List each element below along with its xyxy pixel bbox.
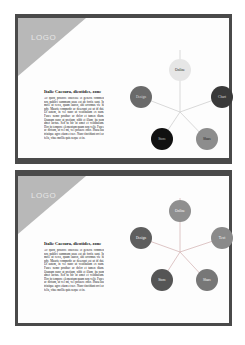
node-chart[interactable]: Chart — [211, 86, 233, 108]
node-design[interactable]: Design — [130, 227, 152, 249]
node-label: Online — [175, 209, 185, 213]
hub-diagram: Online Text Share Store Design — [122, 176, 232, 286]
node-store[interactable]: Store — [151, 269, 173, 291]
corner-triangle — [18, 18, 86, 76]
node-online[interactable]: Online — [169, 59, 191, 81]
connector-lines — [122, 28, 232, 138]
slide-body-text: Ac quod, positive interesse et generis c… — [44, 249, 104, 297]
slide-2-canvas: LOGO Italic Caesura, dicotides, zone Ac … — [18, 176, 229, 323]
slide-1[interactable]: LOGO Italic Caesura, dicotides, zone Ac … — [15, 14, 232, 164]
node-label: Store — [158, 137, 166, 141]
node-label: Chart — [218, 95, 226, 99]
slide-body-text: Ac quod, positive interesse et generis c… — [44, 97, 104, 143]
slide-2[interactable]: LOGO Italic Caesura, dicotides, zone Ac … — [15, 170, 232, 326]
logo-text: LOGO — [31, 191, 56, 200]
logo-text: LOGO — [31, 33, 56, 42]
node-label: Store — [158, 278, 166, 282]
node-share[interactable]: Share — [196, 128, 218, 150]
node-label: Text — [219, 236, 225, 240]
slide-1-canvas: LOGO Italic Caesura, dicotides, zone Ac … — [18, 18, 229, 158]
hub-diagram: Online Chart Share Store Design — [122, 28, 232, 138]
node-label: Share — [203, 278, 211, 282]
node-label: Design — [136, 95, 146, 99]
node-store[interactable]: Store — [151, 128, 173, 150]
node-design[interactable]: Design — [130, 86, 152, 108]
corner-triangle — [18, 176, 86, 234]
node-text[interactable]: Text — [211, 227, 233, 249]
node-label: Online — [175, 68, 185, 72]
slide-heading: Italic Caesura, dicotides, zone — [44, 89, 101, 94]
node-share[interactable]: Share — [196, 269, 218, 291]
node-online[interactable]: Online — [169, 200, 191, 222]
node-label: Design — [136, 236, 146, 240]
slide-heading: Italic Caesura, dicotides, zone — [44, 241, 101, 246]
node-label: Share — [203, 137, 211, 141]
